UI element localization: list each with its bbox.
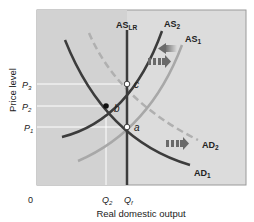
p3-label: P3 xyxy=(22,80,32,91)
point-a xyxy=(124,124,130,130)
y-axis-label: Price level xyxy=(7,68,18,112)
qf-label: Qf xyxy=(124,195,134,206)
x-axis-label: Real domestic output xyxy=(96,208,186,219)
point-c xyxy=(124,81,130,87)
q2-label: Q2 xyxy=(102,195,113,206)
point-b-label: b xyxy=(114,103,120,114)
point-b xyxy=(103,103,109,109)
p2-label: P2 xyxy=(22,102,32,113)
ad-as-diagram: c b a ASLR AS2 AS1 AD2 AD1 P3 P2 P1 Q2 Q… xyxy=(0,0,254,222)
origin-label: 0 xyxy=(28,195,33,205)
p1-label: P1 xyxy=(24,123,33,134)
point-a-label: a xyxy=(134,122,140,133)
point-c-label: c xyxy=(134,79,139,90)
